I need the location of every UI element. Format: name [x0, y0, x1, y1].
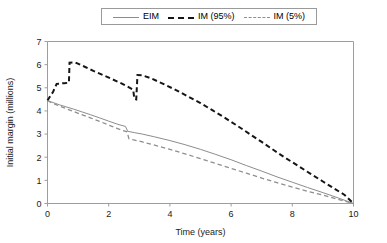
- x-tick-label: 0: [45, 209, 50, 219]
- series-line-eim: [48, 101, 354, 204]
- x-tick-label: 8: [290, 209, 295, 219]
- y-tick-label: 7: [36, 37, 41, 47]
- y-axis-title: Initial margin (millions): [5, 78, 15, 168]
- chart-figure: EIM IM (95%) IM (5%) 012345670246810Time…: [0, 0, 387, 243]
- y-tick-label: 4: [36, 106, 41, 116]
- plot-area: 012345670246810Time (years)Initial margi…: [0, 0, 387, 243]
- chart-canvas: 012345670246810Time (years)Initial margi…: [0, 0, 387, 243]
- x-tick-label: 6: [229, 209, 234, 219]
- series-line-im95: [48, 62, 354, 203]
- y-tick-label: 0: [36, 199, 41, 209]
- y-tick-label: 6: [36, 60, 41, 70]
- x-tick-label: 2: [106, 209, 111, 219]
- y-tick-label: 1: [36, 176, 41, 186]
- x-tick-label: 10: [348, 209, 358, 219]
- y-tick-label: 5: [36, 83, 41, 93]
- y-tick-label: 2: [36, 153, 41, 163]
- x-axis-title: Time (years): [175, 227, 225, 237]
- x-tick-label: 4: [167, 209, 172, 219]
- y-tick-label: 3: [36, 129, 41, 139]
